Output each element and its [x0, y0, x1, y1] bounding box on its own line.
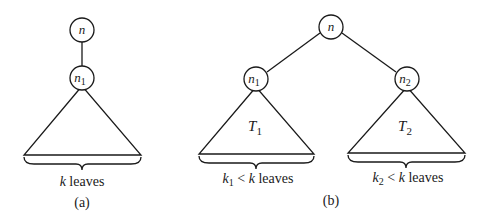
diagram-canvas: n n1 k leaves (a) [0, 0, 490, 220]
panel-caption-a: (a) [74, 195, 90, 211]
subtree-triangle-a [24, 86, 141, 155]
panel-b: n n1 n2 T1 T2 k1 < k leaves k2 < k leave… [199, 15, 465, 209]
edge-n-n2 [342, 33, 396, 72]
leaves-label-t1: k1 < k leaves [223, 171, 294, 188]
leaves-brace-t2 [348, 155, 465, 168]
panel-a: n n1 k leaves (a) [24, 18, 141, 211]
node-label: n [328, 19, 335, 34]
node-label: n [79, 22, 86, 37]
subtree-triangle-t1 [199, 87, 314, 154]
leaves-brace-a [24, 157, 141, 170]
leaves-label-t2: k2 < k leaves [373, 170, 444, 187]
leaves-brace-t1 [199, 156, 314, 169]
panel-caption-b: (b) [323, 193, 340, 209]
subtree-label-t1: T1 [248, 118, 262, 137]
subtree-triangle-t2 [348, 87, 465, 153]
tree-diagram: n n1 k leaves (a) [0, 0, 490, 220]
node-n: n [70, 18, 94, 42]
node-n1: n1 [70, 66, 94, 90]
node-n1: n1 [244, 67, 268, 91]
leaves-label-a: k leaves [60, 174, 105, 189]
node-n2: n2 [395, 67, 419, 91]
subtree-label-t2: T2 [398, 118, 412, 137]
edge-n-n1 [267, 33, 320, 72]
node-n: n [319, 15, 343, 39]
